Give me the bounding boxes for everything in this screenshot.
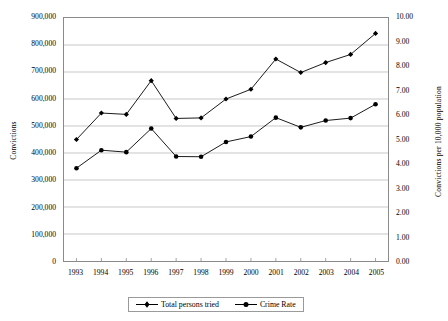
data-point[interactable] [149, 126, 154, 131]
data-series-layer [64, 18, 388, 261]
legend-marker-circle-icon [235, 300, 257, 309]
data-point[interactable] [199, 154, 204, 159]
y-left-tick-label: 100,000 [4, 230, 56, 239]
data-point[interactable] [249, 134, 254, 139]
data-point[interactable] [99, 148, 104, 153]
y-right-tick-label: 3.00 [396, 184, 440, 193]
data-point[interactable] [224, 140, 229, 145]
y-axis-left-title: Convictions [9, 102, 18, 180]
legend-marker-diamond-icon [136, 300, 158, 309]
legend-label-0: Total persons tried [161, 300, 219, 309]
legend-item-0[interactable]: Total persons tried [136, 300, 219, 309]
data-point[interactable] [373, 102, 378, 107]
y-right-tick-label: 2.00 [396, 208, 440, 217]
x-tick-label: 2005 [358, 268, 394, 277]
data-point[interactable] [298, 125, 303, 130]
chart-legend: Total persons tried Crime Rate [128, 297, 304, 312]
data-point[interactable] [348, 116, 353, 121]
y-left-tick-label: 700,000 [4, 66, 56, 75]
y-right-tick-label: 10.00 [396, 12, 440, 21]
data-point[interactable] [298, 70, 303, 75]
y-left-tick-label: 400,000 [4, 148, 56, 157]
y-left-tick-label: 900,000 [4, 12, 56, 21]
y-right-tick-label: 0.00 [396, 257, 440, 266]
y-right-tick-label: 7.00 [396, 86, 440, 95]
data-point[interactable] [323, 60, 328, 65]
y-left-tick-label: 0 [4, 257, 56, 266]
legend-item-1[interactable]: Crime Rate [235, 300, 296, 309]
y-left-tick-label: 200,000 [4, 203, 56, 212]
data-point[interactable] [323, 118, 328, 123]
data-point[interactable] [274, 115, 279, 120]
y-right-tick-label: 9.00 [396, 37, 440, 46]
convictions-crime-rate-chart: Convictions Convictions per 10,000 popul… [0, 0, 448, 321]
y-left-tick-label: 500,000 [4, 121, 56, 130]
series-line-0 [76, 33, 375, 139]
y-right-tick-label: 6.00 [396, 110, 440, 119]
data-point[interactable] [174, 116, 179, 121]
y-left-tick-label: 600,000 [4, 94, 56, 103]
data-point[interactable] [174, 154, 179, 159]
legend-label-1: Crime Rate [260, 300, 296, 309]
y-right-tick-label: 4.00 [396, 159, 440, 168]
data-point[interactable] [74, 166, 79, 171]
y-left-tick-label: 800,000 [4, 39, 56, 48]
y-right-tick-label: 8.00 [396, 61, 440, 70]
y-left-tick-label: 300,000 [4, 175, 56, 184]
data-point[interactable] [124, 150, 129, 155]
plot-area [63, 17, 389, 262]
y-right-tick-label: 5.00 [396, 135, 440, 144]
y-right-tick-label: 1.00 [396, 233, 440, 242]
